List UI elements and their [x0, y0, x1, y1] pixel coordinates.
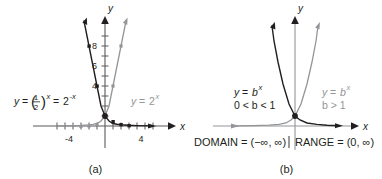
growth-label-lhs: y [130, 95, 137, 107]
decay-curve-arrow-right-a [148, 123, 156, 128]
domain-range-annotation: DOMAIN = (−∞, ∞) RANGE = (0, ∞) [194, 136, 374, 148]
growth-label-base: 2 [149, 95, 155, 107]
growth-curve-label-b: y = b x b > 1 [321, 83, 351, 111]
growth-curve-path-a [57, 21, 126, 126]
growth-curve-points-a [79, 44, 122, 128]
decay-label-exp1: x [46, 92, 51, 101]
decay-curve-arrow-up-a [82, 18, 87, 25]
growth-curve-b [231, 22, 320, 128]
panel-a-graph: x -4 4 4 [0, 0, 191, 179]
panel-a: x -4 4 4 [0, 0, 191, 179]
exponential-functions-figure: x -4 4 4 [0, 0, 382, 179]
decay-label-base2: 2 [63, 95, 69, 107]
decay-label-b-exp: x [258, 83, 263, 92]
decay-label-denominator: 2 [34, 103, 39, 112]
decay-label-numerator: 1 [34, 93, 39, 102]
panel-b-caption: (b) [191, 163, 382, 175]
decay-label-eq2: = [53, 95, 59, 107]
x-axis-group: x -4 4 [33, 121, 186, 144]
growth-curve-arrow-a [123, 18, 128, 25]
panel-a-caption: (a) [0, 163, 191, 175]
decay-label-b-eq: = [242, 86, 248, 98]
y-intercept-point-a [102, 113, 108, 119]
growth-label-b-lhs: y [321, 86, 328, 98]
growth-label-b-condition: b > 1 [322, 99, 346, 111]
decay-label-b-base: b [252, 86, 258, 98]
x-axis-arrow [168, 122, 176, 130]
x-axis-label: x [179, 121, 186, 132]
decay-curve-arrow-up-b [270, 22, 275, 29]
decay-label-b-condition: 0 < b < 1 [234, 99, 276, 111]
growth-label-b-exp: x [346, 83, 351, 92]
decay-curve-b [270, 22, 343, 128]
y-axis-group-b: y [291, 3, 304, 150]
decay-curve-a [82, 18, 156, 129]
x-axis-arrow-b [351, 122, 359, 130]
decay-label-paren-close: ) [41, 93, 46, 110]
growth-curve-a [57, 18, 128, 128]
growth-label-eq1: = [139, 95, 145, 107]
y-intercept-point-b [292, 113, 298, 119]
growth-curve-left-arrow-b [231, 124, 239, 129]
decay-curve-label-b: y = b x 0 < b < 1 [233, 83, 276, 111]
y-axis-label-b: y [297, 3, 304, 14]
growth-curve-arrow-b [315, 22, 320, 29]
decay-curve-label-a: y = ( 1 2 ) x = 2 -x [13, 92, 76, 112]
range-text: RANGE = (0, ∞) [295, 136, 374, 148]
y-axis-arrow-b [291, 16, 299, 24]
growth-label-b-eq: = [330, 86, 336, 98]
decay-label-exp2: -x [70, 92, 76, 101]
x-axis-label-b: x [362, 121, 369, 132]
y-axis-label: y [107, 3, 114, 14]
domain-text: DOMAIN = (−∞, ∞) [194, 136, 286, 148]
panel-b-graph: x y y = [191, 0, 382, 179]
growth-curve-label-a: y = 2 x [130, 92, 160, 107]
growth-label-b-base: b [340, 86, 346, 98]
panel-b: x y y = [191, 0, 382, 179]
x-tick-label-neg4: -4 [65, 134, 73, 144]
decay-label-eq1: = [22, 95, 28, 107]
decay-label-lhs: y [13, 95, 20, 107]
decay-label-b-lhs: y [233, 86, 240, 98]
y-tick-label-8: 8 [92, 41, 97, 51]
y-axis-arrow [101, 16, 109, 24]
growth-label-exp: x [155, 92, 160, 101]
x-tick-label-4: 4 [138, 134, 143, 144]
decay-curve-arrow-right-b [335, 123, 343, 128]
decay-curve-path-a [84, 21, 153, 126]
